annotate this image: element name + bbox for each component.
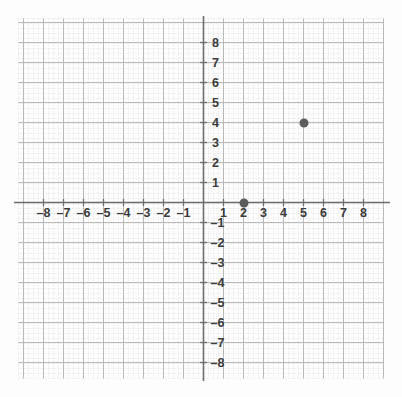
y-tick-label-2: 2 xyxy=(212,156,219,169)
x-tick-label-neg7: –7 xyxy=(57,206,71,219)
y-tick-label-4: 4 xyxy=(212,116,219,129)
y-tick-label-neg5: –5 xyxy=(211,296,225,309)
y-tick-label-8: 8 xyxy=(212,36,219,49)
y-tick-label-5: 5 xyxy=(212,96,219,109)
x-tick-label-8: 8 xyxy=(360,206,367,219)
y-tick-label-1: 1 xyxy=(212,176,219,189)
y-tick-label-6: 6 xyxy=(212,76,219,89)
y-tick-label-neg2: –2 xyxy=(211,236,225,249)
y-tick-label-7: 7 xyxy=(212,56,219,69)
grid-and-axes xyxy=(0,0,402,397)
y-tick-label-neg4: –4 xyxy=(211,276,225,289)
x-tick-label-7: 7 xyxy=(340,206,347,219)
x-tick-label-4: 4 xyxy=(280,206,287,219)
minor-gridlines xyxy=(19,19,384,379)
x-tick-label-neg5: –5 xyxy=(97,206,111,219)
x-tick-label-neg2: –2 xyxy=(157,206,171,219)
y-tick-label-neg7: –7 xyxy=(211,336,225,349)
y-tick-label-neg8: –8 xyxy=(211,356,225,369)
data-point xyxy=(299,118,308,127)
y-tick-label-neg1: –1 xyxy=(211,216,225,229)
x-tick-label-neg4: –4 xyxy=(117,206,131,219)
x-tick-label-neg3: –3 xyxy=(137,206,151,219)
x-tick-label-5: 5 xyxy=(300,206,307,219)
x-tick-label-6: 6 xyxy=(320,206,327,219)
x-tick-label-neg1: –1 xyxy=(177,206,191,219)
data-point xyxy=(239,198,248,207)
x-tick-label-3: 3 xyxy=(260,206,267,219)
y-tick-label-neg3: –3 xyxy=(211,256,225,269)
coordinate-plane: –8–7–6–5–4–3–2–112345678 –8–7–6–5–4–3–2–… xyxy=(0,0,402,397)
x-tick-label-2: 2 xyxy=(240,206,247,219)
y-tick-label-3: 3 xyxy=(212,136,219,149)
x-tick-label-neg8: –8 xyxy=(37,206,51,219)
x-tick-label-neg6: –6 xyxy=(77,206,91,219)
y-tick-label-neg6: –6 xyxy=(211,316,225,329)
